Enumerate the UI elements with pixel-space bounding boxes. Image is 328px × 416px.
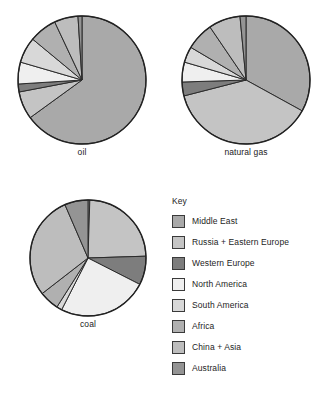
legend-swatch-icon [172, 236, 185, 249]
legend-swatch-icon [172, 362, 185, 375]
pie-chart-natural-gas: natural gas [180, 14, 312, 158]
legend-swatch-icon [172, 278, 185, 291]
legend-item-label: South America [192, 300, 249, 311]
legend-item-label: Middle East [192, 216, 238, 227]
pie-coal-caption: coal [28, 319, 148, 330]
pie-natural-gas-caption: natural gas [180, 147, 312, 158]
legend-swatch-icon [172, 341, 185, 354]
fossil-fuel-reserves-figure: oil natural gas coal Key Middle EastRuss… [0, 0, 328, 416]
legend-swatch-icon [172, 320, 185, 333]
pie-coal-svg [28, 198, 148, 318]
legend: Key Middle EastRussia + Eastern EuropeWe… [170, 196, 326, 379]
legend-item: Russia + Eastern Europe [170, 232, 326, 253]
legend-item: Africa [170, 316, 326, 337]
legend-item: Australia [170, 358, 326, 379]
legend-swatch-icon [172, 299, 185, 312]
legend-item-label: Australia [192, 363, 226, 374]
legend-item-label: Africa [192, 321, 214, 332]
pie-natural-gas-svg [180, 14, 312, 146]
pie-oil-svg [16, 14, 148, 146]
legend-title: Key [172, 196, 326, 207]
legend-item: South America [170, 295, 326, 316]
legend-item: Western Europe [170, 253, 326, 274]
pie-chart-oil: oil [16, 14, 148, 158]
page-bottom-edge [0, 402, 328, 416]
legend-item-label: Western Europe [192, 258, 255, 269]
pie-slice [88, 200, 146, 258]
legend-swatch-icon [172, 215, 185, 228]
legend-item-label: China + Asia [192, 342, 241, 353]
legend-item-label: North America [192, 279, 247, 290]
legend-item: China + Asia [170, 337, 326, 358]
pie-oil-caption: oil [16, 147, 148, 158]
pie-chart-coal: coal [28, 198, 148, 330]
legend-rows: Middle EastRussia + Eastern EuropeWester… [170, 211, 326, 379]
legend-item-label: Russia + Eastern Europe [192, 237, 289, 248]
legend-swatch-icon [172, 257, 185, 270]
legend-item: Middle East [170, 211, 326, 232]
legend-item: North America [170, 274, 326, 295]
